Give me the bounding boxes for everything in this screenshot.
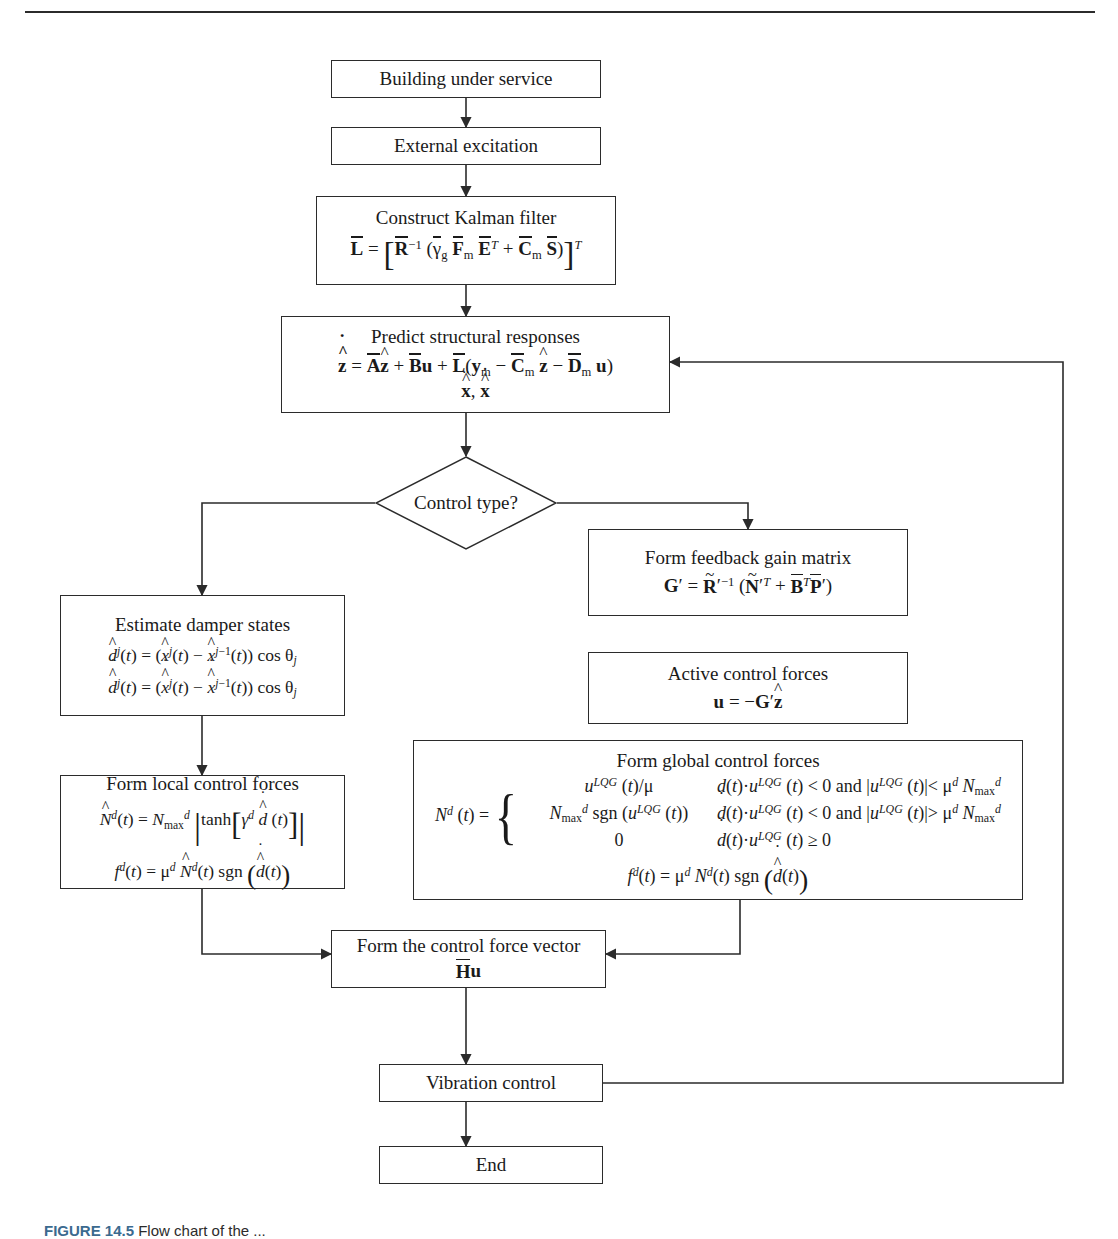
node-title: Construct Kalman filter	[376, 206, 556, 230]
node-equation: Hu	[456, 958, 481, 983]
node-equation: G′ = R′−1 (N′T + BTP′)	[664, 573, 832, 598]
node-label: Control type?	[414, 492, 518, 514]
node-end: End	[379, 1146, 603, 1184]
piecewise-cases: uLQG (t)/μ d(t)·uLQG (t) < 0 and |uLQG (…	[521, 775, 1001, 856]
node-label: Vibration control	[426, 1071, 556, 1095]
node-equation-1: Nd(t) = Nmaxd |tanh[γd d (t)]|	[100, 805, 306, 850]
node-label: External excitation	[394, 134, 538, 158]
node-title: Estimate damper states	[115, 613, 290, 637]
piecewise-case: 0 d(t)·uLQG (t) ≥ 0	[521, 829, 1001, 856]
node-equation: L = [R−1 (γg Fm ET + Cm S)]T	[351, 233, 582, 276]
case-value: uLQG (t)/μ	[521, 775, 717, 798]
node-equation-2: fd(t) = μd Nd(t) sgn (d(t))	[115, 858, 291, 893]
node-form-control-force-vector: Form the control force vector Hu	[331, 930, 606, 988]
piecewise-brace: {	[495, 792, 517, 840]
node-label: End	[476, 1153, 507, 1177]
piecewise-case: Nmaxd sgn (uLQG (t)) d(t)·uLQG (t) < 0 a…	[521, 802, 1001, 829]
node-title: Form the control force vector	[357, 934, 581, 958]
node-external-excitation: External excitation	[331, 127, 601, 165]
node-estimate-damper-states: Estimate damper states dj(t) = (xj(t) − …	[60, 595, 345, 716]
node-decision-control-type: Control type?	[375, 456, 557, 550]
case-value: Nmaxd sgn (uLQG (t))	[521, 802, 717, 825]
piecewise-lhs: Nd (t) =	[435, 804, 491, 827]
figure-caption: FIGURE 14.5 Flow chart of the ...	[44, 1222, 266, 1239]
node-predict-structural-responses: Predict structural responses z = Az + Bu…	[281, 316, 670, 413]
caption-label: FIGURE 14.5	[44, 1222, 134, 1239]
case-value: 0	[521, 829, 717, 852]
node-active-control-forces: Active control forces u = −G′z	[588, 652, 908, 724]
header-rule	[25, 11, 1095, 13]
piecewise-case: uLQG (t)/μ d(t)·uLQG (t) < 0 and |uLQG (…	[521, 775, 1001, 802]
piecewise-equation: Nd (t) = { uLQG (t)/μ d(t)·uLQG (t) < 0 …	[435, 775, 1001, 856]
edge-global-forces-to-force-vector	[606, 900, 740, 954]
node-equation-2: dj(t) = (xj(t) − xj−1(t)) cos θj	[108, 676, 296, 698]
node-equation: z = Az + Bu + L(ym − Cm z − Dm u)	[338, 353, 613, 378]
node-construct-kalman-filter: Construct Kalman filter L = [R−1 (γg Fm …	[316, 196, 616, 285]
node-form-feedback-gain-matrix: Form feedback gain matrix G′ = R′−1 (N′T…	[588, 529, 908, 616]
node-title: Form local control forces	[106, 772, 299, 796]
node-equation-secondary: x, x	[461, 379, 490, 403]
node-equation-1: dj(t) = (xj(t) − xj−1(t)) cos θj	[108, 644, 296, 666]
node-label: Building under service	[379, 67, 552, 91]
node-building-under-service: Building under service	[331, 60, 601, 98]
node-title: Active control forces	[668, 662, 828, 686]
case-condition: d(t)·uLQG (t) < 0 and |uLQG (t)|> μd Nma…	[717, 802, 1001, 825]
caption-text: Flow chart of the ...	[138, 1222, 266, 1239]
node-vibration-control: Vibration control	[379, 1064, 603, 1102]
node-form-global-control-forces: Form global control forces Nd (t) = { uL…	[413, 740, 1023, 900]
node-last-equation: fd(t) = μd Nd(t) sgn (d(t))	[628, 862, 809, 898]
node-form-local-control-forces: Form local control forces Nd(t) = Nmaxd …	[60, 775, 345, 889]
case-condition: d(t)·uLQG (t) < 0 and |uLQG (t)|< μd Nma…	[717, 775, 1001, 798]
node-title: Predict structural responses	[371, 325, 580, 349]
edge-decision-to-feedback-gain	[557, 503, 748, 529]
node-equation: u = −G′z	[714, 690, 783, 714]
edge-decision-to-damper-states	[202, 503, 375, 595]
edge-local-forces-to-force-vector	[202, 889, 331, 954]
